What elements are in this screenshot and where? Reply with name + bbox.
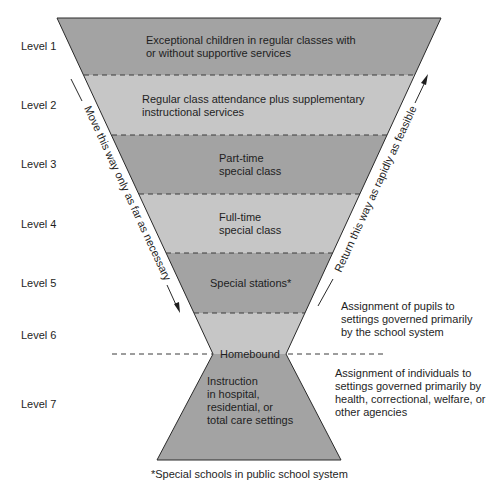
level-3-text-line-1: Part-time [219,152,264,164]
level-7-label: Level 7 [21,398,56,410]
level-1-label: Level 1 [21,40,56,52]
level-5-text: Special stations* [210,277,292,289]
level-7-text-line-3: residential, or [207,401,273,413]
level-5-label: Level 5 [21,277,56,289]
level-3-text-line-2: special class [219,165,282,177]
school-system-note-line-1: Assignment of pupils to [341,300,455,312]
level-4-text-line-2: special class [219,224,282,236]
level-7-text-line-2: in hospital, [207,388,260,400]
level-2-text-line-1: Regular class attendance plus supplement… [142,93,365,105]
level-2-label: Level 2 [21,99,56,111]
level-2-band [83,75,414,135]
arrowhead-down-icon [174,302,180,313]
level-4-label: Level 4 [21,218,56,230]
level-4-text-line-1: Full-time [219,211,261,223]
level-1-text-line-1: Exceptional children in regular classes … [146,34,356,46]
cascade-of-services-diagram: Level 1 Level 2 Level 3 Level 4 Level 5 … [0,0,495,494]
other-agencies-note-line-2: settings governed primarily by [335,380,482,392]
level-6-text: Homebound [220,348,280,360]
arrowhead-up-icon [421,74,428,85]
level-6-label: Level 6 [21,329,56,341]
other-agencies-note-line-4: other agencies [335,406,408,418]
level-7-text-line-4: total care settings [207,414,294,426]
level-3-label: Level 3 [21,158,56,170]
school-system-note-line-3: by the school system [341,326,444,338]
level-2-text-line-2: instructional services [142,106,245,118]
other-agencies-note-line-1: Assignment of individuals to [335,367,471,379]
level-7-text-line-1: Instruction [207,375,258,387]
level-1-text-line-2: or without supportive services [146,47,291,59]
other-agencies-note-line-3: health, correctional, welfare, or [335,393,486,405]
footnote: *Special schools in public school system [151,468,348,480]
school-system-note-line-2: settings governed primarily [341,313,473,325]
